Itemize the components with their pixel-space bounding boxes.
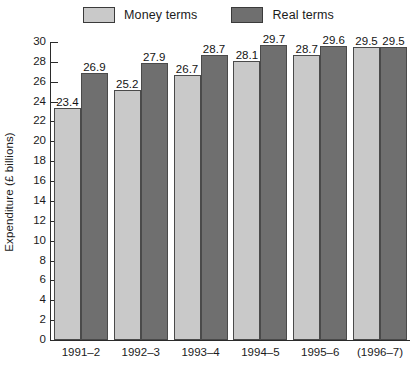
x-axis-category-label: 1992–3	[122, 346, 160, 358]
legend-item-money-terms: Money terms	[83, 7, 197, 23]
x-axis-category-label: 1991–2	[62, 346, 100, 358]
bar-real-terms[interactable]: 29.5	[380, 47, 407, 340]
bar-group: 28.729.61995–6	[290, 42, 350, 340]
bar-value-label: 28.7	[296, 43, 318, 55]
y-tick-label: 26	[33, 75, 46, 87]
bar-money-terms[interactable]: 26.7	[174, 75, 201, 340]
bar-group: 26.728.71993–4	[171, 42, 231, 340]
plot-area: 302826242220181614121086420 23.426.91991…	[50, 42, 410, 341]
y-tick-label: 30	[33, 35, 46, 47]
bar-group: 29.529.5(1996–7)	[350, 42, 410, 340]
bar-pair: 28.729.6	[293, 42, 347, 340]
legend-label-real-terms: Real terms	[272, 8, 333, 22]
x-axis-line	[50, 340, 410, 341]
bar-real-terms[interactable]: 28.7	[201, 55, 228, 340]
bar-value-label: 26.9	[83, 61, 105, 73]
y-tick-label: 16	[33, 174, 46, 186]
bar-real-terms[interactable]: 29.6	[320, 46, 347, 340]
bar-money-terms[interactable]: 25.2	[114, 90, 141, 340]
bar-value-label: 25.2	[116, 78, 138, 90]
x-axis-category-label: (1996–7)	[357, 346, 403, 358]
bar-value-label: 29.6	[323, 34, 345, 46]
bar-pair: 23.426.9	[54, 42, 108, 340]
y-tick-label: 0	[40, 333, 46, 345]
legend-swatch-money-terms	[83, 7, 115, 23]
y-tick-label: 10	[33, 234, 46, 246]
bar-chart: Money terms Real terms Expenditure (£ bi…	[0, 0, 417, 367]
bar-money-terms[interactable]: 29.5	[353, 47, 380, 340]
y-tick-label: 18	[33, 154, 46, 166]
bar-pair: 26.728.7	[174, 42, 228, 340]
y-tick-label: 28	[33, 55, 46, 67]
bar-real-terms[interactable]: 27.9	[141, 63, 168, 340]
y-tick-label: 24	[33, 95, 46, 107]
bar-real-terms[interactable]: 29.7	[260, 45, 287, 340]
legend-item-real-terms: Real terms	[231, 7, 333, 23]
y-axis-title-text: Expenditure (£ billions)	[3, 132, 15, 251]
bar-value-label: 23.4	[56, 96, 78, 108]
legend-swatch-real-terms	[231, 7, 263, 23]
bar-money-terms[interactable]: 28.7	[293, 55, 320, 340]
y-tick-label: 20	[33, 134, 46, 146]
y-tick-label: 4	[40, 293, 46, 305]
y-tick-label: 14	[33, 194, 46, 206]
x-axis-category-label: 1993–4	[181, 346, 219, 358]
bar-money-terms[interactable]: 28.1	[233, 61, 260, 340]
bar-groups: 23.426.91991–225.227.91992–326.728.71993…	[51, 42, 410, 340]
y-tick-label: 12	[33, 214, 46, 226]
x-axis-category-label: 1995–6	[301, 346, 339, 358]
bar-pair: 25.227.9	[114, 42, 168, 340]
y-tick-label: 8	[40, 254, 46, 266]
bar-value-label: 26.7	[176, 63, 198, 75]
bar-value-label: 28.1	[236, 49, 258, 61]
x-axis-category-label: 1994–5	[241, 346, 279, 358]
bar-group: 28.129.71994–5	[230, 42, 290, 340]
bar-group: 23.426.91991–2	[51, 42, 111, 340]
y-tick: 0	[51, 340, 58, 341]
legend-label-money-terms: Money terms	[124, 8, 197, 22]
bar-value-label: 28.7	[203, 43, 225, 55]
bar-money-terms[interactable]: 23.4	[54, 108, 81, 340]
bar-value-label: 29.5	[382, 35, 404, 47]
bar-pair: 29.529.5	[353, 42, 407, 340]
y-tick-label: 6	[40, 273, 46, 285]
y-axis-title: Expenditure (£ billions)	[2, 42, 16, 341]
bar-value-label: 29.7	[263, 33, 285, 45]
bar-value-label: 27.9	[143, 51, 165, 63]
bar-pair: 28.129.7	[233, 42, 287, 340]
chart-legend: Money terms Real terms	[0, 2, 417, 28]
bar-real-terms[interactable]: 26.9	[81, 73, 108, 340]
y-tick-label: 22	[33, 114, 46, 126]
bar-group: 25.227.91992–3	[111, 42, 171, 340]
y-tick-label: 2	[40, 313, 46, 325]
bar-value-label: 29.5	[355, 35, 377, 47]
